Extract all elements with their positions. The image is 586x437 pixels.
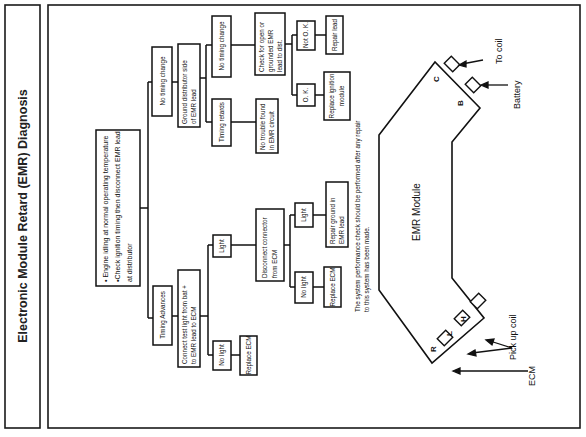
svg-text:Replace ECM: Replace ECM — [329, 268, 337, 307]
svg-text:No timing change: No timing change — [159, 56, 167, 106]
to-coil-label: To coil — [494, 38, 504, 64]
replace-ecm-box-1: Replace ECM — [240, 336, 257, 375]
svg-text:Timing Advances: Timing Advances — [159, 291, 167, 339]
svg-text:•Check ignition timing then d: •Check ignition timing then disconnect E… — [114, 131, 122, 282]
ok-box: O. K. — [297, 84, 315, 106]
svg-text:Replace ECM: Replace ECM — [245, 336, 253, 375]
svg-text:to EMR lead to ECM: to EMR lead to ECM — [190, 307, 197, 364]
svg-text:Light: Light — [300, 208, 308, 222]
pin-l-label: L — [445, 331, 454, 336]
svg-text:grounded EMR: grounded EMR — [267, 29, 275, 72]
svg-text:Repair lead: Repair lead — [331, 18, 339, 51]
no-light-box-1: No light — [213, 341, 231, 370]
no-light-box-2: No light — [295, 272, 313, 303]
svg-text:O. K.: O. K. — [302, 88, 309, 103]
svg-text:at distributor: at distributor — [126, 243, 133, 282]
no-timing-change-box-2: No timing change — [212, 16, 231, 77]
svg-text:in EMR circuit: in EMR circuit — [268, 111, 275, 150]
svg-text:from ECM: from ECM — [271, 250, 278, 278]
pin-b-label: B — [456, 100, 465, 106]
svg-text:Disconnect connector: Disconnect connector — [261, 217, 268, 278]
no-timing-change-box-1: No timing change — [152, 47, 172, 116]
svg-text:Check for open or: Check for open or — [258, 22, 266, 72]
repair-ground-box: Repair ground in EMR lead — [326, 182, 348, 247]
svg-text:Ground distributor side: Ground distributor side — [181, 60, 188, 124]
root-step-box: • Engine idling at normal operating temp… — [96, 130, 140, 286]
svg-text:Repair ground in: Repair ground in — [329, 197, 337, 244]
replace-ecm-box-2: Replace ECM — [324, 267, 341, 307]
svg-text:to this system has been made.: to this system has been made. — [363, 226, 371, 312]
not-ok-box: Not O. K. — [297, 21, 315, 50]
pin-b-terminal — [465, 77, 481, 93]
pin-h-terminal — [470, 293, 486, 309]
disconnect-connector-box: Disconnect connector from ECM — [256, 209, 284, 281]
timing-retards-box: Timing retards — [212, 99, 231, 146]
svg-text:EMR lead: EMR lead — [338, 216, 345, 244]
timing-advances-box: Timing Advances — [153, 286, 172, 345]
svg-text:Timing retards: Timing retards — [218, 102, 226, 142]
emr-module-diagram: EMR Module C B H L R To coil Battery Pic… — [379, 38, 537, 386]
svg-text:• Engine idling at normal oper: • Engine idling at normal operating temp… — [102, 135, 110, 282]
svg-text:No light: No light — [218, 344, 226, 366]
emr-module-label: EMR Module — [411, 183, 422, 241]
performance-check-note: The system performance check should be p… — [354, 121, 371, 312]
svg-text:Replace ignition: Replace ignition — [328, 73, 336, 118]
svg-text:No timing change: No timing change — [218, 21, 226, 71]
svg-text:No light: No light — [300, 276, 308, 298]
svg-text:The system performance check s: The system performance check should be p… — [354, 121, 362, 312]
ground-distributor-box: Ground distributor side of EMR lead — [178, 44, 200, 127]
light-box-1: Light — [213, 235, 231, 257]
connect-test-light-box: Connect test light from bat + to EMR lea… — [178, 270, 200, 367]
pick-up-coil-label: Pick up coil — [508, 314, 518, 360]
pin-c-label: C — [432, 76, 441, 82]
repair-lead-box: Repair lead — [326, 16, 343, 54]
pin-c-terminal — [444, 56, 460, 72]
replace-ignition-module-box: Replace ignition module — [324, 72, 350, 120]
ecm-label: ECM — [527, 366, 537, 386]
svg-text:Not O. K.: Not O. K. — [302, 22, 309, 48]
svg-text:Connect test light from bat +: Connect test light from bat + — [181, 285, 189, 364]
battery-label: Battery — [512, 80, 522, 109]
light-box-2: Light — [295, 203, 313, 227]
svg-text:module: module — [338, 85, 345, 106]
svg-text:Light: Light — [218, 239, 226, 253]
svg-text:No trouble found: No trouble found — [259, 103, 266, 150]
svg-text:of EMR lead: of EMR lead — [190, 89, 197, 124]
no-trouble-found-box: No trouble found in EMR circuit — [256, 99, 278, 153]
pin-h-label: H — [459, 316, 468, 322]
check-open-grounded-box: Check for open or grounded EMR lead to d… — [255, 13, 285, 75]
svg-text:lead to dist.: lead to dist. — [276, 40, 283, 72]
pin-r-label: R — [429, 346, 438, 352]
page-title: Electronic Module Retard (EMR) Diagnosis — [16, 89, 30, 343]
